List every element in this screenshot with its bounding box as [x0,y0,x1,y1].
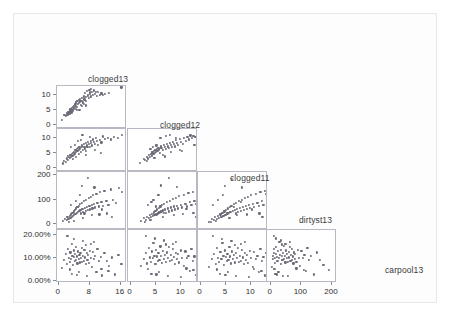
data-point [62,162,64,164]
data-point [259,248,261,250]
data-point [287,275,289,277]
data-point [235,257,237,259]
data-point [78,109,80,111]
data-point [167,207,169,209]
data-point [259,191,261,193]
data-point [80,150,82,152]
data-point [101,208,103,210]
data-point [284,242,286,244]
data-point [164,261,166,263]
data-point [174,208,176,210]
data-point [166,201,168,203]
data-point [108,92,110,94]
data-point [149,219,151,221]
data-point [211,258,213,260]
data-point [226,253,228,255]
scatter-panel-r3c1 [56,171,126,229]
data-point [160,255,162,257]
data-point [121,191,123,193]
y-axis-tick-mark [53,137,56,138]
data-point [228,246,230,248]
data-point [100,268,102,270]
data-point [243,209,245,211]
data-point [93,258,95,260]
data-point [106,136,108,138]
data-point [242,206,244,208]
data-point [248,276,250,278]
data-point [99,152,101,154]
data-point [68,113,70,115]
y-axis-tick-mark [53,223,56,224]
data-point [322,264,324,266]
data-point [185,267,187,269]
data-point [162,250,164,252]
data-point [90,243,92,245]
data-point [89,250,91,252]
data-point [143,258,145,260]
data-point [88,262,90,264]
data-point [295,267,297,269]
y-axis-tick-mark [53,257,56,258]
data-point [165,212,167,214]
data-point [261,216,263,218]
data-point [139,162,141,164]
data-point [300,250,302,252]
data-point [250,194,252,196]
data-point [181,257,183,259]
data-point [157,194,159,196]
data-point [278,257,280,259]
data-point [245,259,247,261]
data-point [184,250,186,252]
y-axis-tick-label: 200 [37,170,50,179]
data-point [83,248,85,250]
data-point [91,214,93,216]
data-point [162,212,164,214]
data-point [177,144,179,146]
variable-label-clogged11: clogged11 [230,173,270,183]
data-point [77,140,79,142]
data-point [280,248,282,250]
data-point [173,256,175,258]
data-point [282,275,284,277]
y-axis-tick-mark [53,199,56,200]
data-point [154,237,156,239]
data-point [212,235,214,237]
data-point [167,177,169,179]
data-point [147,268,149,270]
data-point [102,204,104,206]
data-point [308,259,310,261]
data-point [265,193,266,195]
data-point [171,259,173,261]
data-point [290,259,292,261]
data-point [189,201,191,203]
data-point [233,206,235,208]
data-point [193,255,195,257]
data-point [231,250,233,252]
data-point [255,193,257,195]
data-point [181,206,183,208]
data-point [287,251,289,253]
data-point [87,254,89,256]
data-point [181,150,183,152]
data-point [250,257,252,259]
data-point [241,186,243,188]
x-axis-tick-mark [180,282,181,285]
data-point [175,241,177,243]
variable-label-clogged13: clogged13 [88,74,128,84]
data-point [182,143,184,145]
data-point [178,261,180,263]
data-point [67,248,69,250]
data-point [84,154,86,156]
data-point [163,202,165,204]
data-point [63,259,65,261]
data-point [219,251,221,253]
data-point [226,212,228,214]
data-point [72,249,74,251]
data-point [189,270,191,272]
data-point [224,274,226,276]
x-axis-tick-mark [58,282,59,285]
data-point [99,256,101,258]
data-point [95,271,97,273]
data-point [274,262,276,264]
data-point [237,211,239,213]
